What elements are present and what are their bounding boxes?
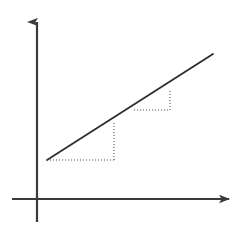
diagram-canvas (0, 0, 242, 240)
straight-line-plot (47, 54, 213, 160)
slope-diagram-svg (0, 0, 242, 240)
